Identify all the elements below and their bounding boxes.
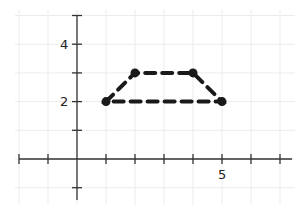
vertex-point bbox=[218, 97, 227, 106]
tick-labels: 5 2 4 bbox=[60, 37, 226, 182]
grid bbox=[15, 10, 295, 205]
vertex-point bbox=[189, 68, 198, 77]
vertex-point bbox=[102, 97, 111, 106]
y-tick-label-4: 4 bbox=[60, 37, 68, 52]
x-tick-label-5: 5 bbox=[218, 167, 226, 182]
vertex-point bbox=[131, 68, 140, 77]
y-tick-label-2: 2 bbox=[60, 94, 68, 109]
coordinate-plane: 5 2 4 bbox=[0, 0, 307, 215]
